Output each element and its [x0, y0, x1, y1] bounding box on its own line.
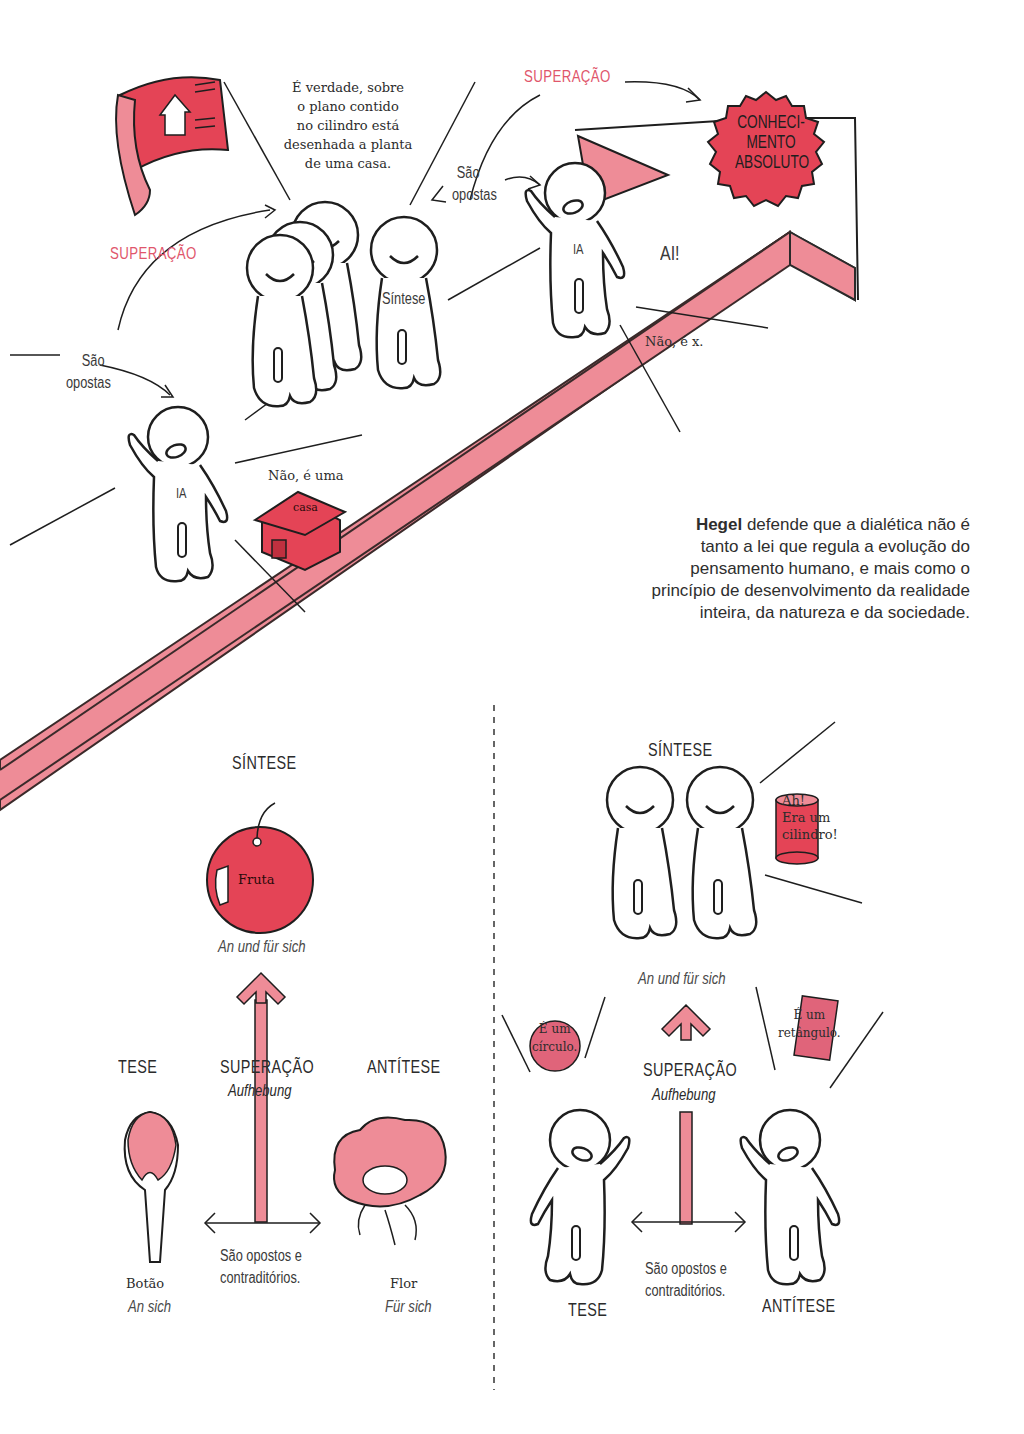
caption-bold: Hegel [696, 515, 742, 534]
fruit-icon [207, 803, 313, 933]
retangulo-speech: É um retângulo. [778, 1006, 841, 1042]
text-line: São opostos e [220, 1245, 302, 1267]
text-line: círculo. [532, 1038, 577, 1056]
ia-shirt-label-2: IA [573, 238, 584, 260]
left-superacao-label: SUPERAÇÃO [220, 1057, 314, 1078]
text-line: São [66, 350, 111, 372]
text-line: contraditórios. [645, 1280, 727, 1302]
text-line: São [452, 162, 497, 184]
circulo-speech: É um círculo. [532, 1020, 577, 1056]
caption-line: defende que a dialética não é [742, 515, 970, 534]
text-line: CONHECI- [735, 112, 807, 132]
flor-label: Flor [390, 1274, 417, 1293]
ia-shirt-label-1: IA [176, 482, 187, 504]
right-superacao-label: SUPERAÇÃO [643, 1060, 737, 1081]
superacao-arrow-right [632, 1005, 745, 1232]
botao-label: Botão [126, 1274, 164, 1293]
fruta-label: Fruta [238, 870, 275, 889]
text-line: Era um [782, 809, 838, 826]
text-line: ABSOLUTO [735, 152, 807, 172]
fur-sich-label: Für sich [385, 1298, 432, 1316]
left-tese-label: TESE [118, 1057, 157, 1078]
nao-e-uma-speech: Não, é uma [268, 466, 344, 485]
superacao-arrow-left [205, 973, 320, 1233]
text-line: São opostos e [645, 1258, 727, 1280]
text-line: cilindro! [782, 826, 838, 843]
cilindro-speech: Ah! Era um cilindro! [782, 792, 838, 843]
text-line: opostas [452, 184, 497, 206]
left-aufhebung-label: Aufhebung [228, 1082, 291, 1100]
text-line: É um [778, 1006, 841, 1024]
caption-line: princípio de desenvolvimento da realidad… [550, 580, 970, 602]
sao-opostas-1: São opostas [66, 350, 111, 394]
handshake-synthesis-characters [607, 767, 756, 938]
left-opostos-label: São opostos e contraditórios. [220, 1245, 302, 1289]
superacao-label-2: SUPERAÇÃO [524, 67, 611, 87]
caption-line: inteira, da natureza e da sociedade. [550, 602, 970, 624]
text-line: contraditórios. [220, 1267, 302, 1289]
text-line: É um [532, 1020, 577, 1038]
blueprint-scroll-icon [116, 77, 228, 215]
nao-e-x-speech: Não, é x. [645, 332, 704, 351]
left-sintese-heading: SÍNTESE [232, 753, 296, 774]
text-line: retângulo. [778, 1024, 841, 1042]
illustration-canvas [0, 0, 1024, 1434]
progress-staircase-band [0, 118, 858, 810]
antitese-character [741, 1110, 839, 1284]
text-line: Ah! [782, 792, 838, 809]
speech-line: no cilindro está [273, 116, 423, 135]
speech-line: É verdade, sobre [273, 78, 423, 97]
caption-line: pensamento humano, e mais como o [550, 558, 970, 580]
sintese-shirt-label: Síntese [382, 288, 425, 310]
flower-icon [334, 1118, 446, 1245]
speech-line: o plano contido [273, 97, 423, 116]
text-line: opostas [66, 372, 111, 394]
superacao-label-1: SUPERAÇÃO [110, 244, 197, 264]
bud-icon [125, 1112, 178, 1262]
right-opostos-label: São opostos e contraditórios. [645, 1258, 727, 1302]
right-aufhebung-label: Aufhebung [652, 1086, 715, 1104]
hegel-caption: Hegel defende que a dialética não é tant… [550, 514, 970, 624]
speech-line: desenhada a planta [273, 135, 423, 154]
ai-exclamation: AI! [660, 242, 680, 264]
left-an-und-fur-sich: An und für sich [218, 938, 306, 956]
speech-line: de uma casa. [273, 154, 423, 173]
right-tese-label: TESE [568, 1300, 607, 1321]
tese-character [531, 1110, 629, 1284]
casa-label: casa [293, 498, 318, 517]
speech-blueprint: É verdade, sobre o plano contido no cili… [273, 78, 423, 173]
text-line: MENTO [735, 132, 807, 152]
sao-opostas-2: São opostas [452, 162, 497, 206]
an-sich-label: An sich [128, 1298, 171, 1316]
absolute-knowledge-label: CONHECI- MENTO ABSOLUTO [735, 112, 807, 172]
caption-line: tanto a lei que regula a evolução do [550, 536, 970, 558]
right-sintese-heading: SÍNTESE [648, 740, 712, 761]
right-an-und-fur-sich: An und für sich [638, 970, 726, 988]
left-antitese-label: ANTÍTESE [367, 1057, 441, 1078]
right-antitese-label: ANTÍTESE [762, 1296, 836, 1317]
